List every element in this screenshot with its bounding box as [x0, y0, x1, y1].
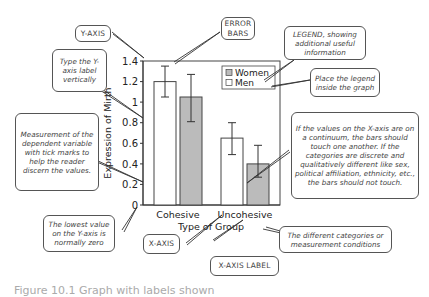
- bar-cohesive-men: [154, 82, 176, 205]
- callout-legend-place: Place the legend inside the graph: [310, 68, 380, 97]
- ytick-1.2: 1.2: [122, 76, 138, 87]
- ytick-0.8: 0.8: [122, 117, 138, 128]
- xtick-cohesive: Cohesive: [156, 209, 200, 220]
- ytick-0.4: 0.4: [122, 159, 138, 170]
- figure-caption: Figure 10.1 Graph with labels shown: [14, 284, 214, 297]
- ytick-0.2: 0.2: [122, 179, 138, 190]
- callout-y-axis: Y-AXIS: [75, 25, 111, 42]
- callout-lowest-value: The lowest value on the Y-axis is normal…: [43, 215, 115, 252]
- ytick-1: 1: [132, 97, 138, 108]
- callout-measurement: Measurement of the dependent variable wi…: [15, 113, 99, 191]
- callout-error-bars: ERROR BARS: [221, 17, 255, 40]
- callout-y-label-vertical: Type the Y-axis label vertically: [52, 49, 107, 92]
- ytick-0.6: 0.6: [122, 138, 138, 149]
- callout-legend-info: LEGEND, showing additional useful inform…: [284, 26, 366, 60]
- ytick-0: 0: [132, 200, 138, 211]
- legend-swatch-men: [226, 80, 232, 86]
- callout-continuum: If the values on the X-axis are on a con…: [291, 112, 419, 199]
- legend-swatch-women: [226, 70, 232, 76]
- y-ticks: 0 0.2 0.4 0.6 0.8 1 1.2 1.4: [122, 56, 143, 211]
- callout-x-axis: X-AXIS: [143, 234, 180, 254]
- xtick-uncohesive: Uncohesive: [218, 209, 273, 220]
- callout-x-axis-label: X-AXIS LABEL: [210, 256, 279, 276]
- legend-label-men: Men: [235, 78, 254, 88]
- ytick-1.4: 1.4: [122, 56, 138, 67]
- legend-label-women: Women: [235, 68, 269, 78]
- callout-categories: The different categories or measurement …: [279, 226, 392, 253]
